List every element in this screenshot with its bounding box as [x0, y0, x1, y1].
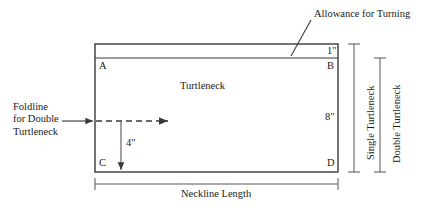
vertex-label-c: C — [99, 157, 106, 169]
single-turtleneck-label: Single Turtleneck — [365, 86, 377, 160]
pattern-outline — [95, 44, 338, 172]
foldline-caption: Foldline for Double Turtleneck — [13, 101, 59, 138]
allowance-leader-line — [291, 20, 311, 56]
foldline-caption-line-2: for Double — [13, 113, 59, 125]
foldline-caption-line-1: Foldline — [13, 101, 59, 113]
allowance-height-measurement: 1" — [327, 45, 337, 57]
vertex-label-b: B — [327, 60, 334, 72]
turtleneck-pattern-diagram: Allowance for Turning A B C D 1" 8" 4" T… — [0, 0, 431, 212]
foldline-offset-measurement: 4" — [126, 137, 136, 149]
allowance-for-turning-label: Allowance for Turning — [314, 8, 410, 20]
double-turtleneck-label: Double Turtleneck — [391, 85, 403, 163]
foldline-caption-line-3: Turtleneck — [13, 126, 59, 138]
body-height-measurement: 8" — [325, 111, 335, 123]
neckline-length-label: Neckline Length — [181, 188, 251, 200]
vertex-label-d: D — [327, 157, 335, 169]
piece-name-label: Turtleneck — [180, 80, 225, 92]
vertex-label-a: A — [99, 60, 107, 72]
